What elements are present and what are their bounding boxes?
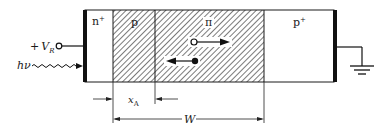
p-label: p [131,16,138,29]
n-plus-label: n+ [92,15,105,28]
p-plus-label: p+ [293,16,306,29]
pi-label: π [205,16,212,29]
right-contact [333,10,337,82]
xa-label: xA [128,94,140,108]
xa-arrow-left-icon [106,97,113,101]
w-label: W [184,113,197,126]
electron-carrier [164,56,200,66]
light-label: hν [17,59,31,72]
bias-label: +VR [30,40,55,55]
left-contact [83,10,87,82]
xa-arrow-right-icon [155,97,162,101]
light-wave-icon [32,65,76,68]
electron-icon [192,58,198,64]
photodiode-diagram: n+ p π p+ +VR hν xA W [0,0,386,131]
w-arrow-right-icon [257,117,264,121]
w-arrow-left-icon [113,117,120,121]
ground-icon [337,47,374,74]
hole-carrier [188,37,232,47]
hole-icon [191,39,197,45]
bias-terminal-icon [56,43,62,49]
light-arrowhead-icon [76,63,83,69]
